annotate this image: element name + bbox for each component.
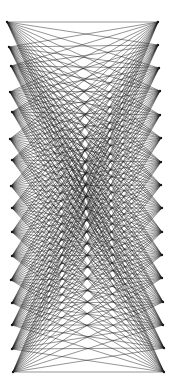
right-node [160,161,162,163]
right-node [162,301,164,303]
right-node [161,277,163,279]
edge [9,47,159,68]
bipartite-graph-diagram [0,0,178,391]
right-node [157,21,159,23]
left-node [9,138,11,140]
edge [12,138,161,256]
right-node [160,137,162,139]
right-node [163,347,165,349]
edge-group [7,22,164,372]
right-node [161,231,163,233]
edge [7,22,158,45]
graph-canvas [0,0,178,391]
edge [11,45,158,66]
right-node [159,90,161,92]
left-node [11,302,13,304]
left-node [11,324,13,326]
edge [10,22,158,92]
left-node [9,91,11,93]
right-node [160,184,162,186]
left-node [10,279,12,281]
left-node [12,371,14,373]
left-node [11,207,13,209]
left-node [11,348,13,350]
right-node [161,207,163,209]
edge [11,22,158,66]
right-node [159,114,161,116]
right-node [157,44,159,46]
left-node [11,231,13,233]
right-node [162,324,164,326]
left-node [11,111,13,113]
right-node [158,67,160,69]
left-node [6,21,8,23]
left-node [10,65,12,67]
right-node [161,254,163,256]
left-node [8,46,10,48]
left-node [10,185,12,187]
left-node [11,159,13,161]
right-node [163,371,165,373]
edge [12,22,158,208]
left-node [11,255,13,257]
edge [7,22,159,68]
